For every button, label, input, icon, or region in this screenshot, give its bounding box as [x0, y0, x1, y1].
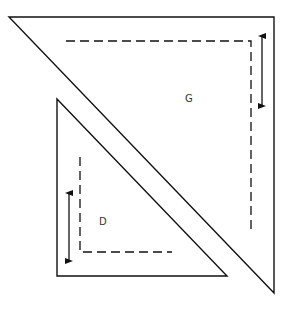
piece-d-label: D [99, 216, 107, 227]
piece-d-outline [57, 99, 227, 276]
piece-d: D [57, 99, 227, 276]
pattern-diagram: G D [0, 0, 290, 311]
piece-g-label: G [185, 93, 193, 104]
